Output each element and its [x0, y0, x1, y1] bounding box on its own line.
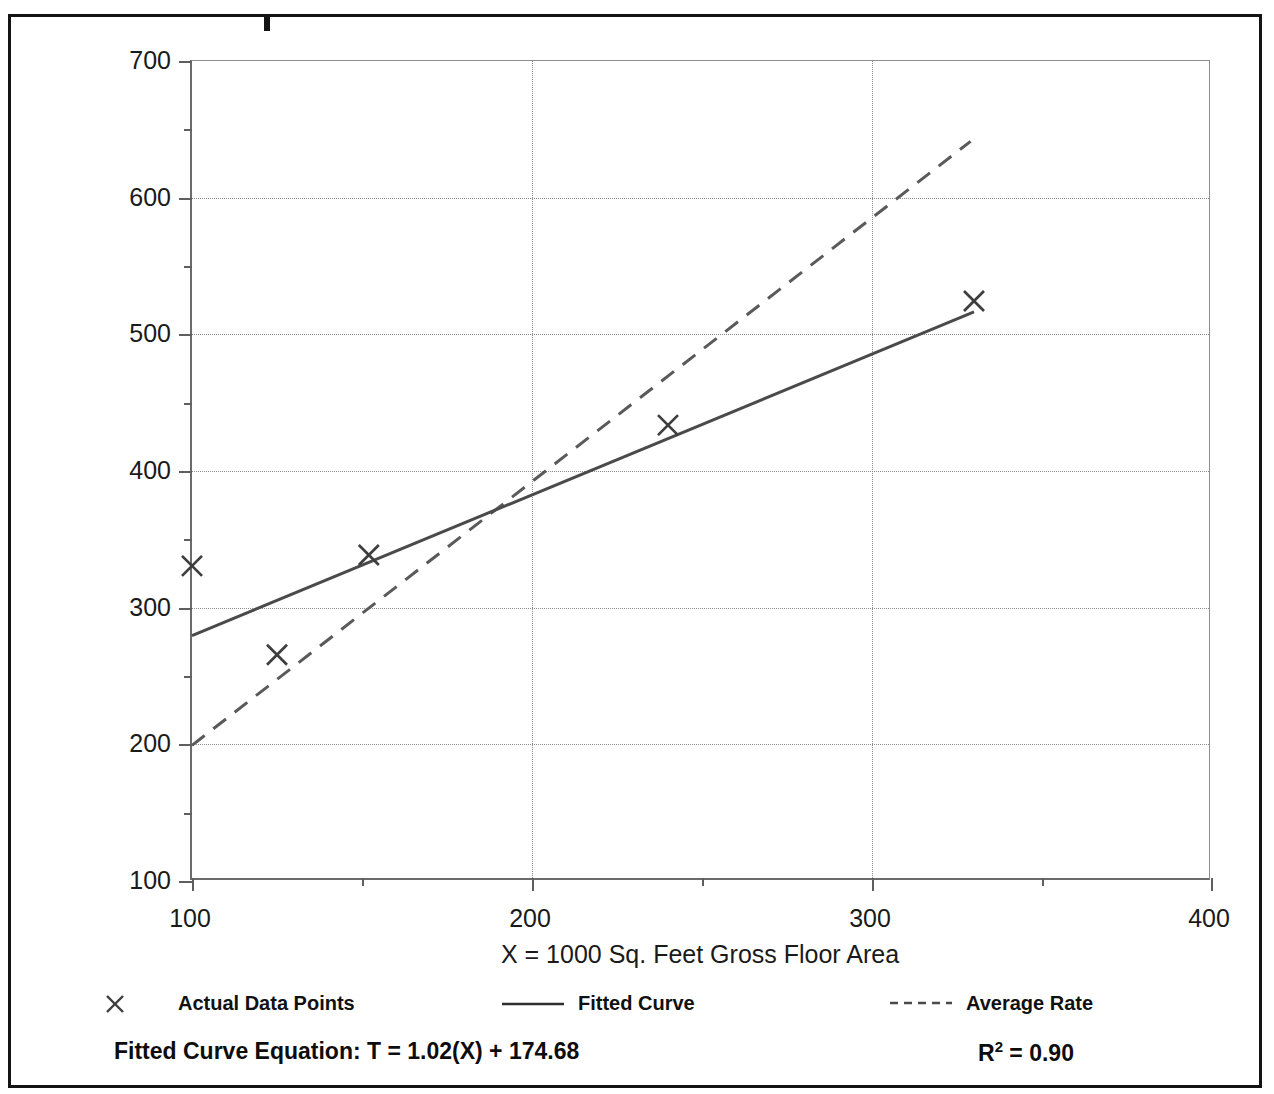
y-tick-650 — [184, 129, 192, 131]
y-tick-450 — [184, 403, 192, 405]
y-tick-label-400: 400 — [91, 458, 171, 483]
legend-item-actual-data-points: Actual Data Points — [100, 988, 355, 1018]
plot-area: 700 600 500 400 300 200 100 — [190, 60, 1210, 880]
y-tick-350 — [184, 539, 192, 541]
y-tick-label-500: 500 — [91, 321, 171, 346]
x-tick-label-300: 300 — [825, 906, 915, 931]
series-overlay — [192, 61, 1212, 881]
legend-item-average-rate: Average Rate — [888, 988, 1093, 1018]
x-axis-title: X = 1000 Sq. Feet Gross Floor Area — [190, 940, 1210, 969]
dashed-line-icon — [888, 990, 948, 1016]
r-squared-symbol: R — [978, 1040, 995, 1066]
legend-label: Fitted Curve — [578, 992, 695, 1015]
x-tick-label-100: 100 — [145, 906, 235, 931]
y-tick-700 — [179, 61, 192, 63]
y-tick-600 — [179, 198, 192, 200]
data-point-marker — [964, 291, 984, 311]
x-tick-label-200: 200 — [485, 906, 575, 931]
y-tick-label-100: 100 — [91, 868, 171, 893]
y-tick-250 — [184, 676, 192, 678]
chart-legend: Actual Data Points Fitted Curve Average … — [100, 988, 1200, 1020]
solid-line-icon — [500, 990, 560, 1016]
y-tick-label-200: 200 — [91, 731, 171, 756]
legend-item-fitted-curve: Fitted Curve — [500, 988, 695, 1018]
chart-page: T = Average Vehicle Trip Ends 700 600 50… — [0, 0, 1274, 1094]
y-tick-label-300: 300 — [91, 595, 171, 620]
fitted-curve-line — [192, 312, 974, 636]
legend-label: Actual Data Points — [178, 992, 355, 1015]
fitted-curve-equation: Fitted Curve Equation: T = 1.02(X) + 174… — [114, 1038, 579, 1065]
r-squared-number: = 0.90 — [1009, 1040, 1074, 1066]
data-point-marker — [267, 645, 287, 665]
data-point-marker — [658, 415, 678, 435]
y-tick-500 — [179, 334, 192, 336]
scan-artifact-mark — [264, 17, 270, 31]
r-squared-value: R2 = 0.90 — [978, 1038, 1074, 1067]
y-tick-label-600: 600 — [91, 185, 171, 210]
x-marker-icon — [100, 990, 160, 1016]
legend-label: Average Rate — [966, 992, 1093, 1015]
equation-row: Fitted Curve Equation: T = 1.02(X) + 174… — [100, 1038, 1200, 1072]
y-tick-300 — [179, 608, 192, 610]
y-tick-400 — [179, 471, 192, 473]
actual-data-points-group — [182, 291, 984, 665]
r-squared-exponent: 2 — [995, 1038, 1003, 1055]
y-tick-200 — [179, 744, 192, 746]
y-tick-550 — [184, 266, 192, 268]
y-tick-150 — [184, 813, 192, 815]
x-axis-tick-labels: 100 200 300 400 — [190, 880, 1210, 940]
average-rate-line — [192, 141, 971, 745]
y-tick-label-700: 700 — [91, 48, 171, 73]
x-tick-label-400: 400 — [1164, 906, 1254, 931]
